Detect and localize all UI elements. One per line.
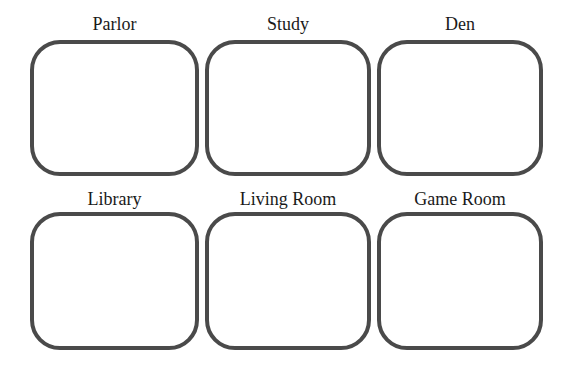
- room-label-parlor: Parlor: [30, 8, 199, 40]
- room-cell-living-room: Living Room: [205, 186, 371, 350]
- room-box-study: [205, 40, 371, 176]
- room-box-game-room: [377, 212, 543, 350]
- room-label-game-room: Game Room: [377, 186, 543, 212]
- room-cell-library: Library: [30, 186, 199, 350]
- room-cell-den: Den: [377, 8, 543, 176]
- room-label-living-room: Living Room: [205, 186, 371, 212]
- room-box-den: [377, 40, 543, 176]
- room-cell-study: Study: [205, 8, 371, 176]
- rooms-diagram: Parlor Study Den Library Living Room Gam…: [0, 0, 569, 375]
- rooms-grid: Parlor Study Den Library Living Room Gam…: [30, 8, 545, 350]
- room-box-library: [30, 212, 199, 350]
- room-label-study: Study: [205, 8, 371, 40]
- room-label-den: Den: [377, 8, 543, 40]
- room-cell-game-room: Game Room: [377, 186, 543, 350]
- room-label-library: Library: [30, 186, 199, 212]
- room-box-living-room: [205, 212, 371, 350]
- room-box-parlor: [30, 40, 199, 176]
- room-cell-parlor: Parlor: [30, 8, 199, 176]
